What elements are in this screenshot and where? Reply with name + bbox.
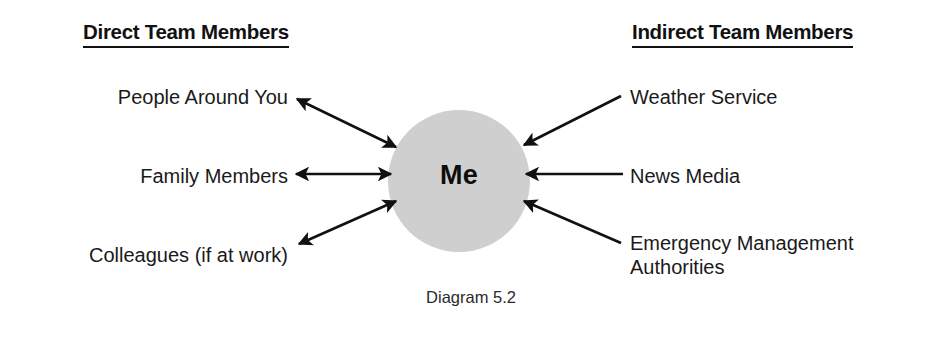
figure-caption: Diagram 5.2 xyxy=(0,288,942,307)
node-label-people-around-you: People Around You xyxy=(118,85,288,109)
connector-emergency-management xyxy=(524,201,621,243)
connector-colleagues xyxy=(299,201,396,244)
node-label-weather-service: Weather Service xyxy=(630,85,777,109)
column-header-indirect: Indirect Team Members xyxy=(632,20,853,48)
column-header-direct: Direct Team Members xyxy=(83,20,289,48)
node-label-emergency-management: Emergency Management Authorities xyxy=(630,231,920,279)
node-label-news-media: News Media xyxy=(630,164,740,188)
connector-people-around-you xyxy=(297,99,396,147)
node-label-colleagues: Colleagues (if at work) xyxy=(89,243,288,267)
diagram-canvas: Direct Team Members Indirect Team Member… xyxy=(0,0,942,344)
center-node-label: Me xyxy=(388,160,530,191)
node-label-family-members: Family Members xyxy=(140,164,288,188)
connector-weather-service xyxy=(524,96,621,145)
